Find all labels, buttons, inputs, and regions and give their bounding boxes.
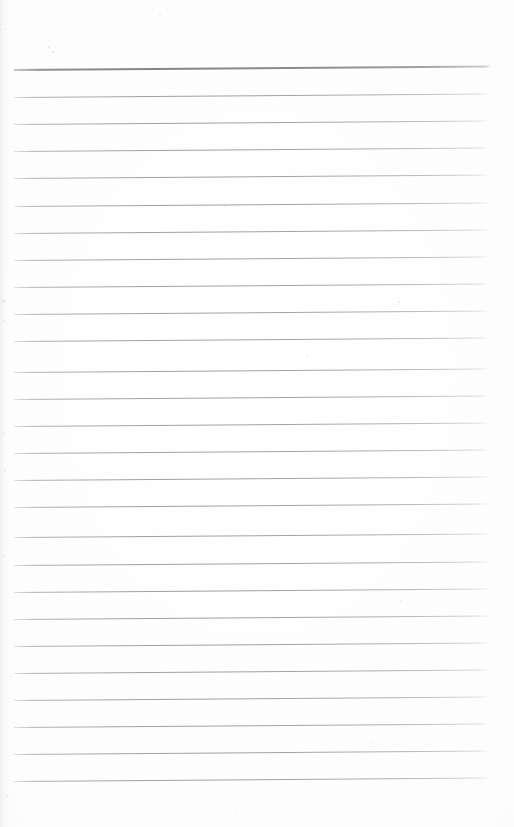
rule-line: [14, 256, 490, 260]
rule-line-stroke: [14, 750, 490, 754]
rule-line-stroke: [14, 66, 490, 71]
rule-line: [14, 120, 490, 124]
rule-line: [14, 777, 490, 781]
rule-line-stroke: [14, 503, 490, 507]
rule-line-stroke: [14, 120, 490, 124]
rule-line-stroke: [14, 368, 490, 372]
ruled-lines-group: [0, 0, 514, 827]
rule-line: [14, 503, 490, 507]
rule-line-stroke: [14, 777, 490, 781]
scanned-page: [0, 0, 514, 827]
rule-line-stroke: [14, 642, 490, 646]
rule-line: [14, 561, 490, 565]
rule-line: [14, 533, 490, 537]
rule-line-stroke: [14, 669, 490, 673]
rule-line: [14, 750, 490, 754]
rule-line: [14, 202, 490, 206]
rule-line-stroke: [14, 283, 490, 287]
rule-line: [14, 588, 490, 592]
rule-line: [14, 395, 490, 399]
rule-line: [14, 723, 490, 727]
rule-line-stroke: [14, 93, 490, 97]
rule-line-stroke: [14, 229, 490, 233]
rule-line-stroke: [14, 449, 490, 453]
rule-line-stroke: [14, 533, 490, 537]
rule-line: [14, 476, 490, 480]
rule-line-stroke: [14, 310, 490, 314]
rule-line: [14, 368, 490, 372]
rule-line: [14, 147, 490, 151]
rule-line: [14, 615, 490, 619]
rule-line: [14, 283, 490, 287]
rule-line: [14, 93, 490, 97]
rule-line-stroke: [14, 202, 490, 206]
rule-line-stroke: [14, 615, 490, 619]
header-rule-line: [14, 66, 490, 71]
rule-line: [14, 669, 490, 673]
rule-line: [14, 422, 490, 426]
rule-line-stroke: [14, 147, 490, 151]
rule-line-stroke: [14, 337, 490, 341]
rule-line: [14, 449, 490, 453]
rule-line-stroke: [14, 256, 490, 260]
rule-line-stroke: [14, 696, 490, 700]
rule-line: [14, 642, 490, 646]
rule-line: [14, 174, 490, 178]
rule-line-stroke: [14, 588, 490, 592]
rule-line: [14, 229, 490, 233]
rule-line: [14, 696, 490, 700]
rule-line-stroke: [14, 561, 490, 565]
rule-line-stroke: [14, 174, 490, 178]
rule-line-stroke: [14, 422, 490, 426]
rule-line-stroke: [14, 723, 490, 727]
rule-line-stroke: [14, 476, 490, 480]
rule-line-stroke: [14, 395, 490, 399]
rule-line: [14, 337, 490, 341]
rule-line: [14, 310, 490, 314]
